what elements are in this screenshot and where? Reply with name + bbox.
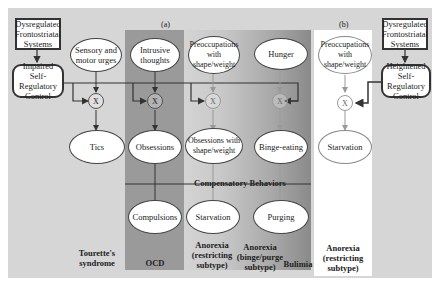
- multiply-node: X: [272, 93, 288, 109]
- b-anorexia-restricting-label: Anorexia (restricting subtype): [314, 243, 372, 273]
- multiply-node: X: [205, 93, 221, 109]
- anorexia-binge-purge-label: Anorexia (binge/purge subtype): [230, 242, 290, 272]
- bulimia-label: Bulimia: [283, 259, 313, 269]
- left-dysregulated-systems-box: Dysregulated Frontostriatal Systems: [15, 18, 61, 50]
- obsessions-shape-node: Obsessions with shape/weight: [185, 128, 243, 164]
- ocd-label: OCD: [130, 258, 180, 268]
- purging-node: Purging: [253, 200, 309, 234]
- preoccupations-node: Preoccupations with shape/weight: [188, 36, 240, 74]
- sensory-urges-node: Sensory and motor urges: [70, 38, 122, 72]
- compulsions-node: Compulsions: [128, 200, 182, 234]
- binge-eating-node: Binge-eating: [254, 130, 308, 164]
- multiply-node: X: [88, 93, 104, 109]
- b-preoccupations-node: Preoccupations with shape/weight: [318, 36, 372, 74]
- intrusive-thoughts-node: Intrusive thoughts: [130, 38, 180, 72]
- obsessions-node: Obsessions: [128, 130, 182, 164]
- tourettes-label: Tourette's syndrome: [72, 248, 122, 268]
- compensatory-behaviors-header: Compensatory Behaviors: [180, 178, 300, 188]
- right-dysregulated-systems-box: Dysregulated Frontostriatal Systems: [382, 18, 428, 50]
- heightened-control-box: Heightened Self-Regulatory Control: [381, 64, 431, 98]
- tics-node: Tics: [69, 130, 125, 164]
- b-starvation-node: Starvation: [318, 130, 372, 164]
- impaired-control-box: Impaired Self-Regulatory Control: [12, 64, 64, 98]
- multiply-node: X: [147, 93, 163, 109]
- multiply-node: X: [337, 95, 353, 111]
- hunger-node: Hunger: [254, 38, 308, 70]
- starvation-node: Starvation: [186, 200, 240, 234]
